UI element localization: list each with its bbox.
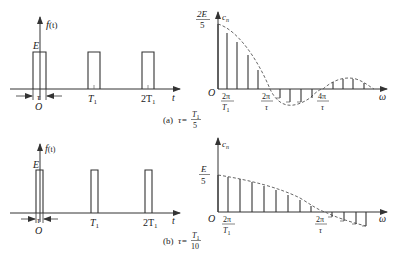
tick-2T1: 2T1 bbox=[143, 217, 158, 230]
svg-text:T1: T1 bbox=[222, 103, 229, 113]
spectral-lines bbox=[218, 24, 364, 102]
tick-4pi-tau: 4π τ bbox=[317, 92, 329, 112]
panel-b-time-plot: f(t) E τ O T1 2T1 t bbox=[10, 143, 180, 236]
svg-text:τ: τ bbox=[319, 226, 323, 235]
cn-top-num: 2E bbox=[197, 9, 208, 19]
amplitude-label: E bbox=[32, 159, 39, 170]
tick-2pi-T1: 2π T1 bbox=[222, 215, 235, 236]
svg-text:5: 5 bbox=[193, 121, 197, 130]
svg-text:(b): (b) bbox=[163, 236, 174, 246]
t-axis-label: t bbox=[172, 92, 175, 103]
origin-label: O bbox=[35, 225, 42, 236]
caption-b: (b) τ= T1 10 bbox=[163, 231, 201, 251]
svg-text:τ: τ bbox=[321, 103, 325, 112]
t-axis-label: t bbox=[172, 215, 175, 226]
cn-top-den: 5 bbox=[200, 20, 205, 30]
svg-text:2π: 2π bbox=[262, 92, 270, 101]
tick-2pi-tau: 2π τ bbox=[315, 215, 327, 235]
svg-text:T1: T1 bbox=[192, 231, 199, 241]
panel-a-time-plot: f(t) E τ O T1 2T1 t bbox=[10, 17, 180, 112]
cn-top-num: E bbox=[200, 164, 207, 174]
pulse-2T1 bbox=[142, 52, 154, 89]
amplitude-label: E bbox=[32, 40, 39, 51]
svg-text:(a): (a) bbox=[163, 115, 173, 125]
sinc-envelope bbox=[218, 24, 374, 105]
svg-text:τ: τ bbox=[265, 103, 269, 112]
cn-axis-label: cn bbox=[222, 139, 229, 150]
svg-text:4π: 4π bbox=[318, 92, 326, 101]
cn-axis-label: cn bbox=[222, 12, 229, 23]
origin-label: O bbox=[35, 101, 42, 112]
f-axis-label: f(t) bbox=[46, 18, 58, 30]
pulse-T1 bbox=[88, 52, 100, 89]
caption-a: (a) τ= T1 5 bbox=[163, 110, 201, 130]
tick-2pi-tau: 2π τ bbox=[261, 92, 273, 112]
panel-a-spectrum-plot: 2E 5 cn O ω 2π T1 2π τ 4π τ bbox=[196, 9, 387, 113]
cn-top-den: 5 bbox=[201, 176, 206, 186]
pulse-2T1 bbox=[145, 170, 152, 213]
panel-b-spectrum-plot: E 5 cn O ω 2π T1 2π τ bbox=[199, 138, 387, 236]
f-axis-label: f(t) bbox=[45, 143, 56, 154]
svg-text:T1: T1 bbox=[223, 226, 230, 236]
tick-T1: T1 bbox=[90, 217, 100, 230]
tick-2pi-T1: 2π T1 bbox=[221, 92, 234, 113]
origin-label: O bbox=[208, 213, 215, 224]
svg-text:10: 10 bbox=[191, 242, 199, 251]
omega-label: ω bbox=[379, 91, 386, 102]
svg-text:T1: T1 bbox=[192, 110, 199, 120]
omega-label: ω bbox=[379, 213, 386, 224]
svg-text:2π: 2π bbox=[222, 92, 230, 101]
tick-T1: T1 bbox=[88, 93, 98, 106]
pulse-T1 bbox=[91, 170, 98, 213]
svg-text:2π: 2π bbox=[316, 215, 324, 224]
periodic-pulse-spectrum-diagram: f(t) E τ O T1 2T1 t (a) τ= T1 5 bbox=[0, 0, 393, 259]
svg-text:2π: 2π bbox=[223, 215, 231, 224]
svg-text:τ=: τ= bbox=[178, 236, 187, 246]
tick-2T1: 2T1 bbox=[141, 93, 156, 106]
svg-text:τ=: τ= bbox=[178, 115, 187, 125]
spectral-lines bbox=[218, 175, 366, 226]
origin-label: O bbox=[208, 87, 215, 98]
